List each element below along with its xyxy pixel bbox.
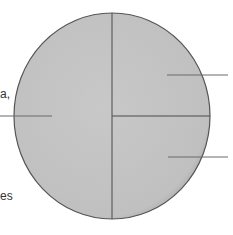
label-fragment-left-lower: es [0, 190, 13, 202]
pie-diagram [0, 0, 233, 235]
label-fragment-left-upper: a, [0, 88, 10, 100]
